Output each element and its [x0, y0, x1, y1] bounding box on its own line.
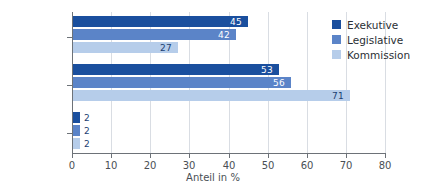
bar-legislative-zu-gering[interactable]: [72, 29, 236, 40]
x-tick-0: [72, 153, 73, 158]
bar-row: 2: [72, 112, 385, 123]
bar-value: 2: [84, 126, 90, 136]
bar-legislative-angemessen[interactable]: [72, 77, 291, 88]
bar-legislative-zu-hoch[interactable]: [72, 125, 80, 136]
bar-kommission-angemessen[interactable]: [72, 90, 350, 101]
x-tick-20: [150, 153, 151, 158]
x-tick-30: [189, 153, 190, 158]
bar-value: 2: [84, 139, 90, 149]
legend-swatch-icon: [332, 20, 341, 29]
bar-chart: 45 42 27 53 56 71: [0, 0, 426, 188]
bar-row: 2: [72, 125, 385, 136]
bar-group-zu-hoch: 2 2 2: [72, 112, 385, 151]
x-tick-label-30: 30: [183, 160, 196, 171]
bar-row: 71: [72, 90, 385, 101]
y-tick-zu-hoch: [67, 133, 72, 134]
bar-value: 56: [273, 78, 285, 88]
x-tick-label-70: 70: [340, 160, 353, 171]
bar-row: 2: [72, 138, 385, 149]
x-tick-label-80: 80: [379, 160, 392, 171]
legend-swatch-icon: [332, 50, 341, 59]
bar-exekutive-zu-gering[interactable]: [72, 16, 248, 27]
legend-item-legislative[interactable]: Legislative: [332, 34, 410, 45]
x-tick-label-20: 20: [144, 160, 157, 171]
y-axis-line: [72, 12, 73, 153]
bar-value: 42: [218, 30, 230, 40]
x-tick-60: [307, 153, 308, 158]
y-tick-zu-gering: [67, 37, 72, 38]
bar-exekutive-zu-hoch[interactable]: [72, 112, 80, 123]
bar-value: 27: [160, 43, 172, 53]
x-axis-title: Anteil in %: [0, 172, 426, 183]
legend: Exekutive Legislative Kommission: [332, 19, 410, 64]
legend-item-kommission[interactable]: Kommission: [332, 49, 410, 60]
bar-value: 53: [261, 65, 273, 75]
bar-value: 2: [84, 113, 90, 123]
bar-row: 56: [72, 77, 385, 88]
legend-label: Exekutive: [347, 19, 398, 31]
x-tick-80: [385, 153, 386, 158]
bar-value: 45: [230, 17, 242, 27]
bar-row: 53: [72, 64, 385, 75]
bar-value: 71: [332, 91, 344, 101]
x-tick-50: [268, 153, 269, 158]
legend-label: Legislative: [347, 34, 403, 46]
bar-group-angemessen: 53 56 71: [72, 64, 385, 103]
x-tick-10: [111, 153, 112, 158]
x-tick-label-40: 40: [223, 160, 236, 171]
x-tick-label-60: 60: [301, 160, 314, 171]
x-tick-label-50: 50: [262, 160, 275, 171]
x-tick-label-0: 0: [69, 160, 75, 171]
x-tick-70: [346, 153, 347, 158]
legend-swatch-icon: [332, 35, 341, 44]
bar-kommission-zu-hoch[interactable]: [72, 138, 80, 149]
y-tick-angemessen: [67, 85, 72, 86]
bar-exekutive-angemessen[interactable]: [72, 64, 279, 75]
x-tick-label-10: 10: [105, 160, 118, 171]
legend-item-exekutive[interactable]: Exekutive: [332, 19, 410, 30]
x-tick-40: [229, 153, 230, 158]
legend-label: Kommission: [347, 49, 410, 61]
